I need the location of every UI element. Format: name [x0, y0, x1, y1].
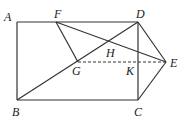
label-D: D	[135, 7, 145, 21]
segment-FG	[56, 22, 78, 62]
segment-CE	[138, 62, 166, 100]
segment-DE	[138, 22, 166, 62]
label-C: C	[134, 105, 143, 119]
label-G: G	[72, 64, 81, 78]
label-E: E	[169, 56, 178, 70]
label-A: A	[3, 10, 12, 24]
label-H: H	[105, 46, 116, 60]
label-B: B	[12, 105, 20, 119]
label-F: F	[53, 7, 62, 21]
geometry-diagram: A B C D E F G H K	[0, 0, 187, 123]
label-K: K	[125, 64, 135, 78]
